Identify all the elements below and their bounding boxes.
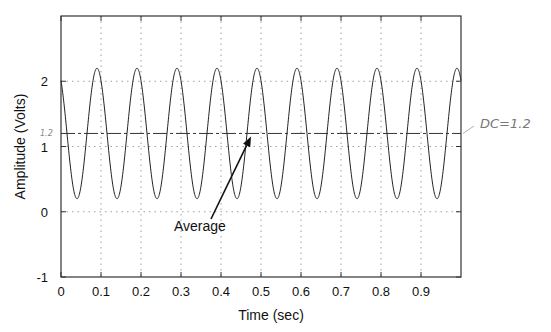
dc-annotation: DC=1.2 (480, 116, 531, 131)
x-tick-label: 0.1 (92, 284, 110, 299)
x-tick-label: 0.5 (252, 284, 270, 299)
y-tick-labels: -1012 (36, 74, 48, 285)
y-tick-label: -1 (36, 270, 48, 285)
dc-leader-line (463, 126, 474, 133)
average-annotation: Average (174, 218, 226, 234)
x-tick-label: 0 (57, 284, 64, 299)
dc-axis-annotation: 1.2 (40, 129, 53, 138)
y-tick-label: 2 (41, 74, 48, 89)
x-tick-label: 0.6 (292, 284, 310, 299)
y-tick-label: 0 (41, 205, 48, 220)
x-axis-label: Time (sec) (238, 307, 304, 323)
x-tick-label: 0.9 (412, 284, 430, 299)
y-axis-label: Amplitude (Volts) (12, 94, 28, 200)
grid-lines (61, 16, 461, 277)
x-tick-labels: 00.10.20.30.40.50.60.70.80.9 (57, 284, 430, 299)
x-tick-label: 0.7 (332, 284, 350, 299)
chart: 00.10.20.30.40.50.60.70.80.9 -1012 Time … (0, 0, 551, 332)
x-tick-label: 0.8 (372, 284, 390, 299)
x-tick-label: 0.4 (212, 284, 230, 299)
x-tick-label: 0.3 (172, 284, 190, 299)
x-tick-label: 0.2 (132, 284, 150, 299)
y-tick-label: 1 (41, 140, 48, 155)
